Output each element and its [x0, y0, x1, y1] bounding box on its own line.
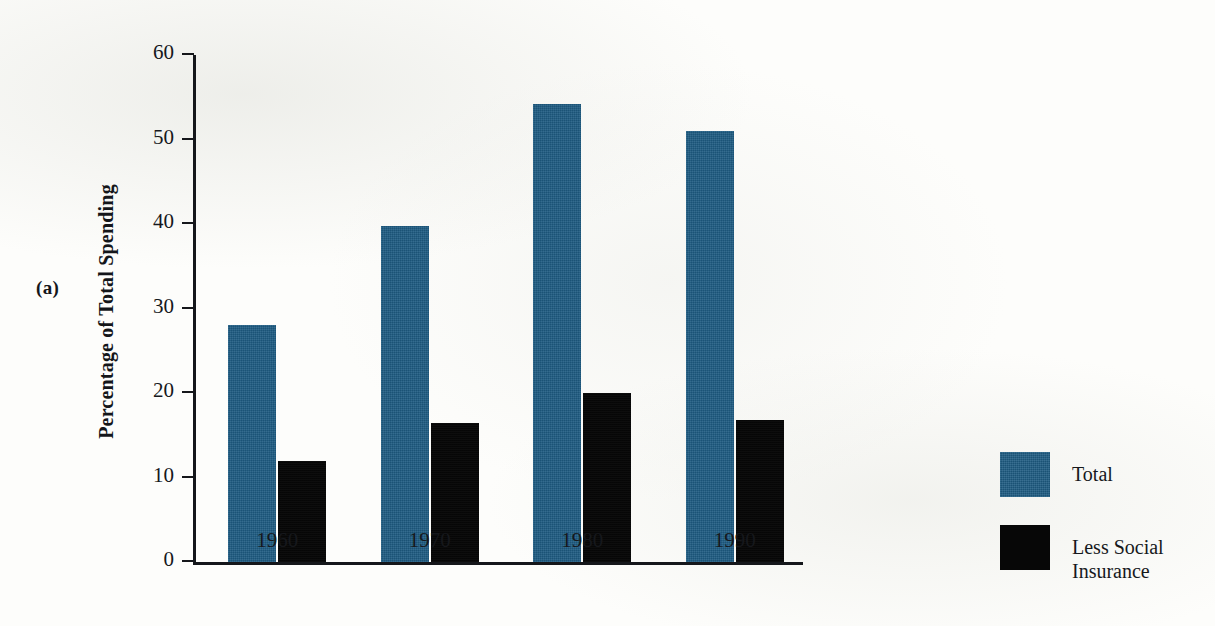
- bar-group: [381, 55, 479, 562]
- y-tick-label: 60: [153, 40, 174, 65]
- bar-total-1970: [381, 226, 429, 562]
- legend-item-total: Total: [1000, 452, 1164, 497]
- legend: TotalLess SocialInsurance: [1000, 452, 1164, 612]
- figure-canvas: (a) Percentage of Total Spending 0102030…: [0, 0, 1215, 626]
- legend-label: Total: [1072, 452, 1113, 486]
- x-tick-label-1990: 1990: [695, 528, 775, 553]
- legend-label: Less SocialInsurance: [1072, 525, 1164, 584]
- panel-label: (a): [36, 277, 59, 299]
- bar-group: [228, 55, 326, 562]
- y-axis-title: Percentage of Total Spending: [95, 122, 118, 502]
- bars-layer: [193, 55, 803, 562]
- y-tick-label: 50: [153, 125, 174, 150]
- plot-area: 0102030405060: [193, 55, 803, 562]
- x-tick-label-1960: 1960: [237, 528, 317, 553]
- y-tick-label: 40: [153, 209, 174, 234]
- y-tick-label: 30: [153, 294, 174, 319]
- y-tick-label: 10: [153, 463, 174, 488]
- bar-group: [533, 55, 631, 562]
- y-tick-label: 0: [164, 547, 175, 572]
- x-tick-label-1980: 1980: [542, 528, 622, 553]
- bar-total-1980: [533, 104, 581, 562]
- x-axis-line: [193, 562, 803, 565]
- bar-group: [686, 55, 784, 562]
- legend-swatch: [1000, 525, 1050, 570]
- bar-total-1990: [686, 131, 734, 562]
- bar-total-1960: [228, 325, 276, 562]
- x-tick-label-1970: 1970: [390, 528, 470, 553]
- legend-item-less-social-insurance: Less SocialInsurance: [1000, 525, 1164, 584]
- legend-swatch: [1000, 452, 1050, 497]
- y-tick-label: 20: [153, 378, 174, 403]
